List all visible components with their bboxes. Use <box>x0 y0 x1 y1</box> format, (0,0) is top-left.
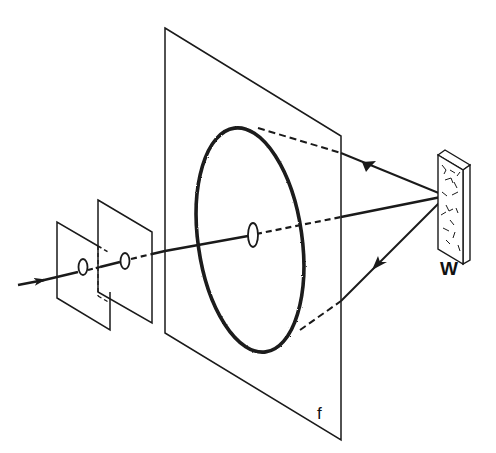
aperture-hole-1 <box>79 259 88 275</box>
sample-block <box>438 150 470 264</box>
aperture-hole-2 <box>121 253 130 269</box>
diagram-canvas <box>0 0 496 453</box>
cone-edge-lower-dashed <box>300 301 341 330</box>
incident-beam <box>18 277 57 285</box>
diffracted-ray-lower <box>341 196 446 301</box>
diffracted-ray-upper <box>341 153 446 196</box>
sample-label: W <box>440 258 458 280</box>
film-label: f <box>317 404 322 424</box>
aperture-screen-2 <box>98 200 152 323</box>
film-center-hole <box>248 223 258 247</box>
